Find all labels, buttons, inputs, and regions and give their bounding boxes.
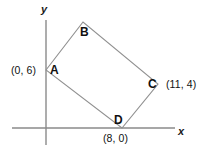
coordinate-label-d: (8, 0) xyxy=(103,133,128,144)
x-axis-label: x xyxy=(178,126,184,137)
quadrilateral-abcd-shape xyxy=(46,22,158,128)
y-axis-label: y xyxy=(41,4,47,15)
vertex-label-b: B xyxy=(80,26,89,38)
vertex-label-a: A xyxy=(50,64,59,76)
coordinate-label-a: (0, 6) xyxy=(11,65,36,76)
vertex-label-c: C xyxy=(148,78,157,90)
coordinate-label-c: (11, 4) xyxy=(166,79,196,90)
coordinate-geometry-figure: y x A B C D (0, 6) (11, 4) (8, 0) xyxy=(0,0,210,153)
vertex-label-d: D xyxy=(114,114,123,126)
